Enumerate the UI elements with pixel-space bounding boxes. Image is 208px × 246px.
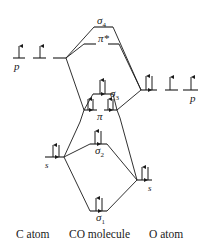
o-s-label: s [148, 183, 152, 194]
electron-arrows [19, 46, 191, 211]
caption-co-molecule: CO molecule [69, 228, 130, 241]
caption-o-atom: O atom [149, 228, 183, 241]
sigma4-label: σ4 [97, 15, 106, 31]
sigma1-label: σ1 [96, 212, 105, 228]
sigma2-label: σ2 [95, 145, 104, 161]
o-p-label: p [190, 93, 196, 104]
pi-star-label: π* [98, 33, 109, 44]
pi-label: π [97, 111, 103, 122]
caption-c-atom: C atom [16, 228, 50, 241]
sigma3-label: σ3 [110, 88, 119, 104]
c-p-label: p [14, 61, 20, 72]
c-s-label: s [45, 160, 49, 171]
